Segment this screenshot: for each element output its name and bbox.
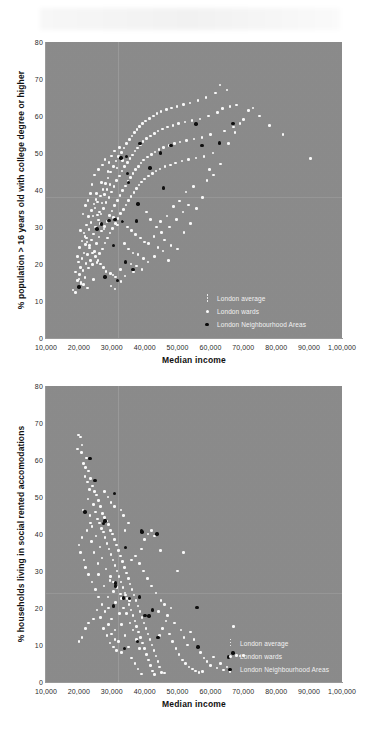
x-axis-title-2: Median income bbox=[46, 699, 342, 709]
data-point-ward bbox=[173, 622, 176, 625]
data-point-ward bbox=[79, 551, 82, 554]
data-point-ward bbox=[127, 522, 130, 525]
data-point-neighbourhood bbox=[231, 122, 234, 125]
data-point-neighbourhood bbox=[126, 172, 129, 175]
data-point-ward bbox=[109, 183, 112, 186]
data-point-ward bbox=[125, 142, 128, 145]
x-tick-labels-2: 10,00020,00030,00040,00050,00060,00070,0… bbox=[46, 688, 342, 698]
data-point-ward bbox=[109, 579, 112, 582]
data-point-ward bbox=[151, 644, 154, 647]
data-point-ward bbox=[309, 157, 312, 160]
data-point-ward bbox=[158, 666, 161, 669]
data-point-ward bbox=[170, 107, 173, 110]
data-point-ward bbox=[201, 670, 204, 673]
data-point-ward bbox=[110, 633, 113, 636]
data-point-ward bbox=[78, 246, 81, 249]
data-point-ward bbox=[165, 108, 168, 111]
data-point-neighbourhood bbox=[135, 219, 138, 222]
data-point-ward bbox=[133, 191, 136, 194]
data-point-ward bbox=[86, 529, 89, 532]
data-point-ward bbox=[159, 549, 162, 552]
data-point-ward bbox=[103, 228, 106, 231]
data-point-ward bbox=[91, 485, 94, 488]
data-point-ward bbox=[102, 188, 105, 191]
data-point-ward bbox=[88, 228, 91, 231]
data-point-ward bbox=[95, 242, 98, 245]
data-point-ward bbox=[146, 577, 149, 580]
data-point-ward bbox=[199, 651, 202, 654]
data-point-ward bbox=[114, 288, 117, 291]
data-point-neighbourhood bbox=[200, 144, 203, 147]
data-point-ward bbox=[128, 138, 131, 141]
data-point-ward bbox=[111, 227, 114, 230]
data-point-ward bbox=[176, 105, 179, 108]
data-point-ward bbox=[147, 175, 150, 178]
data-point-ward bbox=[148, 117, 151, 120]
data-point-ward bbox=[93, 203, 96, 206]
data-point-ward bbox=[181, 659, 184, 662]
data-point-ward bbox=[161, 627, 164, 630]
data-point-neighbourhood bbox=[95, 227, 98, 230]
data-point-ward bbox=[163, 239, 166, 242]
data-point-ward bbox=[134, 168, 137, 171]
data-point-ward bbox=[122, 514, 125, 517]
data-point-ward bbox=[160, 231, 163, 234]
data-point-ward bbox=[88, 244, 91, 247]
data-point-ward bbox=[206, 660, 209, 663]
data-point-ward bbox=[90, 239, 93, 242]
data-point-ward bbox=[193, 138, 196, 141]
data-point-ward bbox=[155, 226, 158, 229]
data-point-ward bbox=[109, 642, 112, 645]
data-point-ward bbox=[105, 270, 108, 273]
data-point-ward bbox=[113, 505, 116, 508]
data-point-ward bbox=[252, 107, 255, 110]
legend-label: London Neighbourhood Areas bbox=[214, 321, 306, 328]
data-point-ward bbox=[150, 585, 153, 588]
data-point-ward bbox=[102, 207, 105, 210]
data-point-ward bbox=[216, 667, 219, 670]
data-point-ward bbox=[135, 599, 138, 602]
data-point-ward bbox=[159, 220, 162, 223]
data-point-neighbourhood bbox=[83, 510, 86, 513]
data-point-ward bbox=[130, 559, 133, 562]
data-point-neighbourhood bbox=[121, 220, 124, 223]
data-point-ward bbox=[137, 668, 140, 671]
legend-item: London Neighbourhood Areas bbox=[223, 663, 329, 676]
data-point-ward bbox=[97, 259, 100, 262]
data-point-ward bbox=[191, 668, 194, 671]
data-point-ward bbox=[113, 150, 116, 153]
data-point-ward bbox=[105, 201, 108, 204]
data-point-ward bbox=[118, 575, 121, 578]
data-point-ward bbox=[192, 185, 195, 188]
data-point-ward bbox=[123, 566, 126, 569]
data-point-ward bbox=[176, 570, 179, 573]
data-point-ward bbox=[108, 214, 111, 217]
data-point-ward bbox=[107, 607, 110, 610]
data-point-ward bbox=[197, 99, 200, 102]
data-point-ward bbox=[153, 649, 156, 652]
data-point-ward bbox=[82, 283, 85, 286]
legend-item: London wards bbox=[223, 650, 329, 663]
data-point-ward bbox=[97, 219, 100, 222]
data-point-ward bbox=[108, 161, 111, 164]
data-point-ward bbox=[74, 271, 77, 274]
data-point-ward bbox=[165, 620, 168, 623]
data-point-ward bbox=[85, 224, 88, 227]
data-point-ward bbox=[84, 204, 87, 207]
data-point-ward bbox=[117, 640, 120, 643]
data-point-ward bbox=[147, 659, 150, 662]
data-point-ward bbox=[97, 596, 100, 599]
data-point-ward bbox=[95, 192, 98, 195]
data-point-ward bbox=[208, 168, 211, 171]
data-point-ward bbox=[133, 131, 136, 134]
legend-1: London averageLondon wardsLondon Neighbo… bbox=[200, 292, 306, 331]
data-point-ward bbox=[171, 640, 174, 643]
data-point-ward bbox=[160, 110, 163, 113]
data-point-ward bbox=[105, 568, 108, 571]
data-point-ward bbox=[135, 187, 138, 190]
data-point-neighbourhood bbox=[148, 166, 151, 169]
data-point-ward bbox=[173, 142, 176, 145]
data-point-neighbourhood bbox=[127, 181, 130, 184]
data-point-ward bbox=[219, 163, 222, 166]
data-point-ward bbox=[153, 255, 156, 258]
